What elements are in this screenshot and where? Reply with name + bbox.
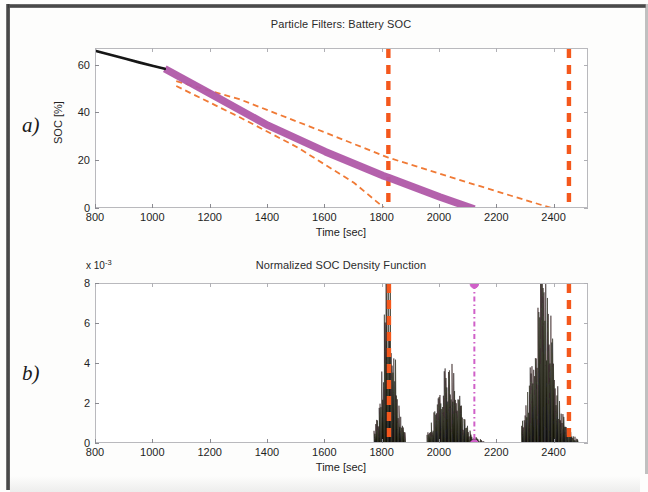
x-tick [496,439,497,443]
x-tick-label: 1400 [255,211,279,223]
y-tick [95,403,99,404]
x-tick [496,204,497,208]
x-tick-label: 1400 [255,446,279,458]
y-tick-label: 6 [65,317,90,329]
y-tick-right [584,443,588,444]
figure-page: a) Particle Filters: Battery SOC SOC [%]… [0,0,648,492]
x-tick [152,204,153,208]
y-tick-right [584,65,588,66]
prediction-band-line [165,69,475,208]
x-tick-top [324,48,325,52]
x-tick-top [554,48,555,52]
x-tick-label: 1600 [312,446,336,458]
y-tick-label: 0 [65,202,90,214]
x-tick-top [496,283,497,287]
x-tick [210,204,211,208]
x-tick-top [439,48,440,52]
panel-b-letter: b) [22,361,40,386]
y-tick-label: 40 [65,106,90,118]
x-tick-label: 2400 [541,446,565,458]
x-tick-top [267,48,268,52]
panel-a-x-axis-label: Time [sec] [316,226,366,238]
x-tick [152,439,153,443]
y-tick [95,283,99,284]
x-tick-label: 1800 [369,211,393,223]
y-tick [95,323,99,324]
x-tick-top [267,283,268,287]
panel-b-title: Normalized SOC Density Function [256,259,427,271]
panel-b-plot-area [95,283,588,443]
confidence-bound-line [176,81,554,208]
measured-soc-line [96,51,165,69]
y-tick [95,443,99,444]
x-tick [324,204,325,208]
x-tick-label: 1200 [197,446,221,458]
x-tick-label: 2000 [427,211,451,223]
x-tick-top [210,283,211,287]
x-tick-label: 1800 [369,446,393,458]
x-tick [324,439,325,443]
x-tick-label: 1000 [140,446,164,458]
x-tick [267,439,268,443]
y-tick-right [584,208,588,209]
y-tick-right [584,403,588,404]
x-tick-top [210,48,211,52]
exponent-prefix: x 10 [86,260,105,271]
x-tick-top [95,48,96,52]
y-tick-label: 60 [65,59,90,71]
panel-a-title: Particle Filters: Battery SOC [271,18,411,30]
y-tick-label: 8 [65,277,90,289]
x-tick-label: 2200 [484,446,508,458]
y-tick-label: 4 [65,357,90,369]
y-tick [95,363,99,364]
y-tick-label: 20 [65,154,90,166]
y-tick [95,160,99,161]
panel-b-svg [96,284,588,443]
x-tick [554,204,555,208]
x-tick [382,204,383,208]
x-tick-top [382,48,383,52]
y-tick-label: 2 [65,397,90,409]
x-tick-top [152,48,153,52]
y-tick-right [584,323,588,324]
x-tick-label: 2400 [541,211,565,223]
x-tick-top [324,283,325,287]
y-tick-right [584,160,588,161]
panel-a: a) Particle Filters: Battery SOC SOC [%]… [0,0,648,246]
panel-b-x-axis-label: Time [sec] [316,461,366,473]
y-tick-right [584,363,588,364]
x-tick-label: 2200 [484,211,508,223]
y-tick [95,208,99,209]
x-tick-label: 1600 [312,211,336,223]
panel-a-svg [96,49,588,208]
x-tick-label: 1000 [140,211,164,223]
x-tick [554,439,555,443]
x-tick [210,439,211,443]
panel-a-plot-area [95,48,588,208]
y-tick [95,65,99,66]
x-tick [267,204,268,208]
exponent-power: -3 [105,258,112,267]
x-tick-top [382,283,383,287]
x-tick-top [496,48,497,52]
confidence-bound-line [176,86,385,208]
y-tick-right [584,112,588,113]
y-tick-right [584,283,588,284]
panel-a-y-axis-label: SOC [%] [52,101,64,144]
y-tick [95,112,99,113]
x-tick [439,439,440,443]
x-tick-top [439,283,440,287]
panel-b-y-exponent: x 10-3 [86,258,112,271]
predicted-eod-marker-point [470,283,478,288]
x-tick [439,204,440,208]
x-tick-top [152,283,153,287]
x-tick-label: 1200 [197,211,221,223]
x-tick-label: 2000 [427,446,451,458]
x-tick-top [554,283,555,287]
y-tick-label: 0 [65,437,90,449]
density-histogram-area [96,283,588,443]
panel-b: b) Normalized SOC Density Function x 10-… [0,246,648,492]
x-tick [382,439,383,443]
panel-a-letter: a) [22,113,40,138]
